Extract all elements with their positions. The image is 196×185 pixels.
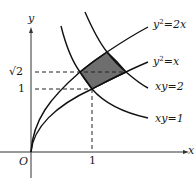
x-axis-label: x: [188, 145, 194, 156]
x-tick-1: 1: [89, 155, 96, 166]
label-xy-eq-2: xy=2: [155, 81, 184, 92]
y-axis-arrow-icon: [29, 27, 33, 33]
label-xy-eq-1: xy=1: [155, 113, 184, 124]
y-tick-sqrt2: √2: [9, 66, 23, 77]
label-y2-eq-2x: y2=2x: [153, 19, 186, 30]
y-tick-1: 1: [18, 83, 25, 94]
y-axis-label: y: [28, 13, 34, 24]
origin-label: O: [19, 156, 28, 167]
label-y2-eq-x: y2=x: [153, 56, 179, 67]
